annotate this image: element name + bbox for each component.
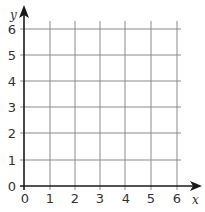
grid-lines [20,21,181,190]
x-tick-0: 0 [21,191,29,206]
x-tick-6: 6 [173,191,181,206]
y-tick-2: 2 [8,126,16,141]
x-tick-3: 3 [96,191,104,206]
y-tick-6: 6 [8,22,16,37]
y-tick-5: 5 [8,48,16,63]
coordinate-grid-chart: 0 1 2 3 4 5 6 x 0 1 2 3 4 5 6 y [0,0,205,212]
x-tick-labels: 0 1 2 3 4 5 6 [21,191,181,206]
y-tick-0: 0 [8,179,16,194]
y-tick-1: 1 [8,153,16,168]
y-tick-3: 3 [8,100,16,115]
y-axis-label: y [9,8,17,22]
axes [20,12,194,190]
y-tick-4: 4 [8,74,16,89]
x-tick-2: 2 [71,191,79,206]
x-tick-4: 4 [122,191,130,206]
x-axis-label: x [192,193,199,207]
x-tick-5: 5 [147,191,155,206]
x-tick-1: 1 [46,191,54,206]
y-tick-labels: 0 1 2 3 4 5 6 [8,22,16,194]
